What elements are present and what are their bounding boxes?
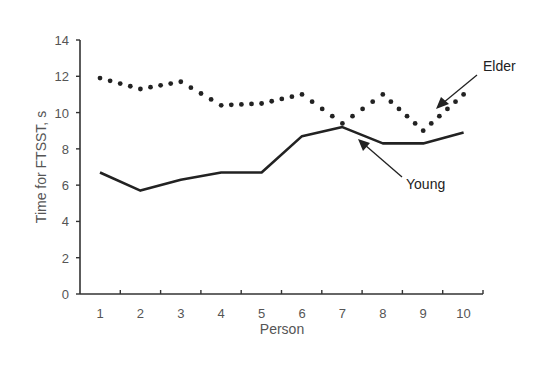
y-tick-label: 4 xyxy=(62,214,69,229)
y-tick-label: 0 xyxy=(62,287,69,302)
line-chart: 02468101214 12345678910 Person Time for … xyxy=(0,0,541,365)
y-tick-label: 8 xyxy=(62,142,69,157)
y-tick-label: 6 xyxy=(62,178,69,193)
y-tick-label: 14 xyxy=(55,33,69,48)
elder-series xyxy=(98,76,466,133)
y-tick-label: 2 xyxy=(62,251,69,266)
x-tick-label: 7 xyxy=(339,306,346,321)
young-annotation: Young xyxy=(358,139,445,192)
arrow-head-icon xyxy=(358,139,370,151)
series-lines xyxy=(98,76,466,191)
elder-annotation: Elder xyxy=(436,58,516,109)
x-tick-label: 9 xyxy=(420,306,427,321)
x-tick-label: 1 xyxy=(96,306,103,321)
axes xyxy=(80,40,483,294)
y-tick-label: 10 xyxy=(55,106,69,121)
x-tick-label: 4 xyxy=(218,306,225,321)
x-tick-label: 5 xyxy=(258,306,265,321)
x-tick-label: 10 xyxy=(456,306,470,321)
y-axis-title: Time for FTSST, s xyxy=(33,111,49,223)
y-axis-ticks: 02468101214 xyxy=(55,33,80,302)
x-tick-label: 2 xyxy=(137,306,144,321)
x-tick-label: 6 xyxy=(298,306,305,321)
x-tick-label: 3 xyxy=(177,306,184,321)
x-axis-title: Person xyxy=(260,321,304,337)
elder-label: Elder xyxy=(483,58,516,74)
x-tick-label: 8 xyxy=(379,306,386,321)
young-label: Young xyxy=(406,176,445,192)
y-tick-label: 12 xyxy=(55,69,69,84)
